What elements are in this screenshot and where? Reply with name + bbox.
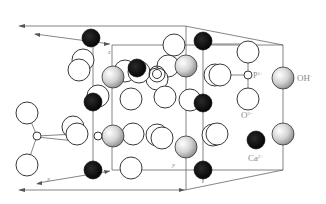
axis-label-x: x <box>46 175 51 183</box>
axis-label-z: z <box>108 49 111 55</box>
legend-label-o: O2− <box>241 110 253 120</box>
legend-label-ca: Ca2+ <box>248 153 264 163</box>
legend-label-oh: OH− <box>297 73 313 83</box>
oxygen-atoms <box>16 34 259 179</box>
axis-label-y: y <box>171 161 176 169</box>
legend-label-p: P5+ <box>253 71 263 80</box>
crystal-structure-diagram: z x y <box>0 0 326 204</box>
